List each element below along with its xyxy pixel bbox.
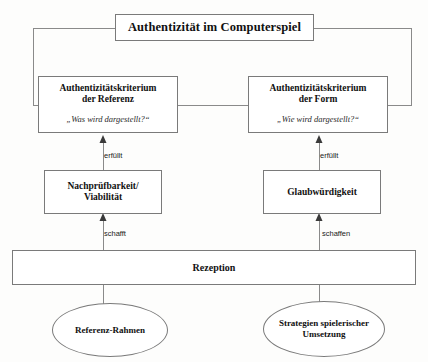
node-glaubwuerdigkeit[interactable]: Glaubwürdigkeit: [263, 170, 381, 214]
node-criterion-reference-label-line1: Authentizitätskriterium: [59, 83, 156, 94]
node-reference-frame-label: Referenz-Rahmen: [75, 325, 145, 336]
arrowhead-credibility-to-criterion-form: [316, 135, 323, 143]
edge-label-schaffen-right: schaffen: [322, 229, 350, 238]
node-criterion-reference-label-line2: der Referenz: [82, 94, 134, 105]
node-viability-label-line1: Nachprüfbarkeit/: [67, 181, 138, 192]
diagram-canvas: Authentizität im Computerspiel Authentiz…: [0, 0, 428, 362]
node-rezeption[interactable]: Rezeption: [12, 250, 416, 285]
node-strategies-label-wrap: Strategien spielerischer Umsetzung: [279, 318, 369, 340]
edge-label-schafft-left: schafft: [104, 229, 126, 238]
arrowhead-reception-to-credibility: [316, 213, 323, 221]
arrowhead-reception-to-viability: [100, 213, 107, 221]
node-strategies-label-line2: Umsetzung: [279, 329, 369, 340]
node-authentizitaet-im-computerspiel[interactable]: Authentizität im Computerspiel: [115, 14, 314, 41]
edge-label-erfuellt-left: erfüllt: [104, 151, 122, 160]
node-strategies-label-line1: Strategien spielerischer: [279, 318, 369, 329]
node-strategien-spielerischer-umsetzung[interactable]: Strategien spielerischer Umsetzung: [263, 301, 385, 357]
node-credibility-label: Glaubwürdigkeit: [287, 187, 357, 198]
node-criterion-form-label-line1: Authentizitätskriterium: [269, 83, 366, 94]
node-criterion-form-question: „Wie wird dargestellt?“: [277, 114, 359, 124]
node-reception-label: Rezeption: [193, 262, 236, 274]
node-root-label: Authentizität im Computerspiel: [128, 20, 301, 34]
node-referenz-rahmen[interactable]: Referenz-Rahmen: [52, 303, 168, 357]
node-authentizitaetskriterium-der-referenz[interactable]: Authentizitätskriterium der Referenz „Wa…: [38, 76, 178, 133]
edge-label-erfuellt-right: erfüllt: [320, 151, 338, 160]
node-authentizitaetskriterium-der-form[interactable]: Authentizitätskriterium der Form „Wie wi…: [248, 76, 388, 133]
node-criterion-form-label-line2: der Form: [299, 94, 338, 105]
node-criterion-reference-question: „Was wird dargestellt?“: [66, 114, 149, 124]
arrowhead-viability-to-criterion-reference: [100, 135, 107, 143]
node-nachpruefbarkeit-viabilitaet[interactable]: Nachprüfbarkeit/ Viabilität: [44, 170, 162, 214]
node-viability-label-line2: Viabilität: [84, 192, 122, 203]
